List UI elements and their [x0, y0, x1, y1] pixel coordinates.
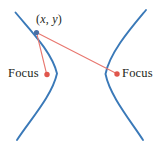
focus-left-dot [44, 72, 49, 77]
focus-left-label: Focus [8, 67, 39, 80]
focus-right-dot [114, 71, 119, 76]
point-xy-dot [34, 30, 39, 35]
hyperbola-figure: (x, y) Focus Focus [0, 0, 158, 146]
paren-close: ) [58, 12, 62, 26]
focus-right-label: Focus [122, 67, 153, 80]
point-xy-label: (x, y) [36, 13, 62, 25]
